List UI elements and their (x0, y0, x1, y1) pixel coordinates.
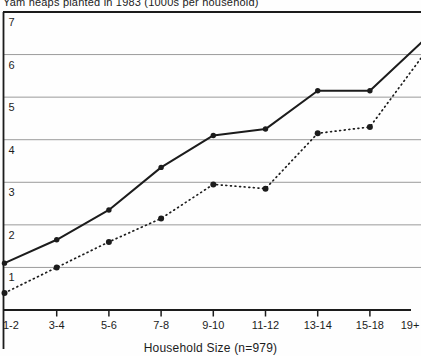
x-tick-label: 11-12 (252, 319, 279, 331)
solid-line-marker (158, 165, 163, 170)
x-tick-label: 7-8 (153, 319, 169, 331)
solid-line-marker (367, 88, 372, 93)
y-tick-label: 5 (9, 101, 15, 113)
y-tick-label: 3 (9, 186, 15, 198)
y-tick-label: 1 (9, 271, 15, 283)
y-tick-label: 7 (9, 16, 15, 28)
x-tick-label: 5-6 (101, 319, 117, 331)
dotted-line-marker (54, 264, 60, 270)
dotted-line-marker (2, 290, 8, 296)
x-tick-label: 19+ (401, 319, 420, 331)
y-tick-label: 2 (9, 229, 15, 241)
dotted-line-marker (210, 181, 216, 187)
dotted-line-marker (158, 215, 164, 221)
x-tick-label: 3-4 (49, 319, 65, 331)
y-tick-label: 4 (9, 144, 15, 156)
x-tick-label: 1-2 (3, 319, 19, 331)
x-tick-label: 13-14 (304, 319, 332, 331)
solid-line (5, 42, 421, 263)
solid-line-marker (2, 260, 7, 265)
chart-figure: Yam heaps planted in 1983 (1000s per hou… (0, 0, 421, 356)
solid-line-marker (211, 133, 216, 138)
dotted-line-marker (367, 124, 373, 130)
solid-line-marker (315, 88, 320, 93)
solid-line-marker (263, 126, 268, 131)
dotted-line (5, 57, 421, 293)
dotted-line-marker (106, 239, 112, 245)
solid-line-marker (54, 237, 59, 242)
dotted-line-marker (315, 130, 321, 136)
plot-area: 12345671-23-45-67-89-1011-1213-1415-1819… (0, 0, 421, 356)
x-axis-title: Household Size (n=979) (0, 341, 421, 355)
x-tick-label: 15-18 (356, 319, 384, 331)
dotted-line-marker (263, 186, 269, 192)
solid-line-marker (106, 207, 111, 212)
y-tick-label: 6 (9, 59, 15, 71)
x-tick-label: 9-10 (202, 319, 224, 331)
